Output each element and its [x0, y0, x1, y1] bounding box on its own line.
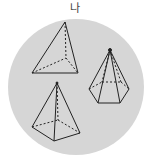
square-pyramid [32, 82, 80, 141]
pentagonal-pyramid [89, 49, 129, 104]
triangular-pyramid [32, 22, 78, 73]
pyramids-diagram [0, 0, 150, 158]
